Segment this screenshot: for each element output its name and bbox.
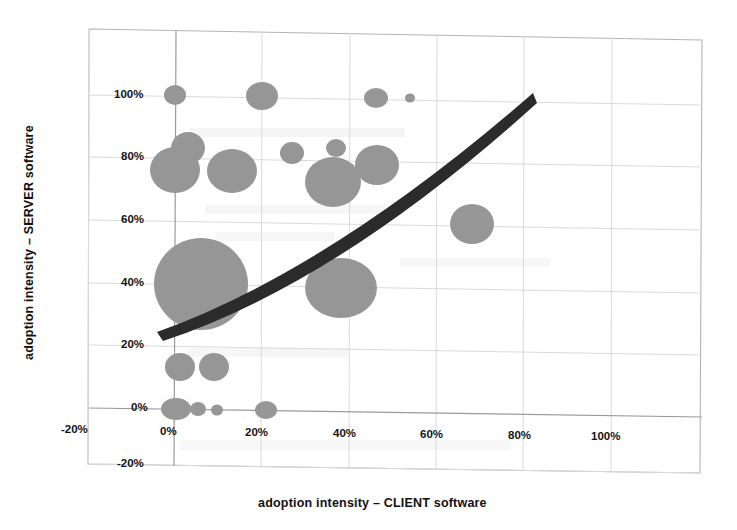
y-tick-40: 40%	[121, 276, 144, 288]
bubble	[165, 353, 195, 381]
x-axis-title: adoption intensity – CLIENT software	[258, 496, 487, 510]
y-tick-80: 80%	[121, 150, 144, 162]
bubble	[164, 85, 186, 105]
bubble	[305, 157, 361, 207]
y-tick-0: 0%	[131, 401, 148, 413]
bubble	[355, 145, 399, 185]
chart-canvas	[0, 0, 737, 530]
bubble	[450, 204, 494, 244]
x-tick-60: 60%	[420, 428, 443, 440]
x-tick-40: 40%	[333, 427, 356, 439]
y-axis-title: adoption intensity – SERVER software	[22, 130, 36, 360]
x-tick-20: 20%	[245, 426, 268, 438]
x-tick-80: 80%	[508, 429, 531, 441]
bubble	[207, 149, 257, 193]
x-tick-neg20: -20%	[61, 423, 88, 435]
bubble	[405, 94, 415, 103]
bubble	[211, 405, 223, 416]
bubble	[326, 139, 346, 157]
bubble	[150, 147, 200, 193]
y-tick-60: 60%	[121, 213, 144, 225]
y-tick-20: 20%	[121, 338, 144, 350]
x-tick-100: 100%	[591, 430, 620, 442]
y-tick-100: 100%	[114, 88, 143, 100]
bubble	[246, 82, 278, 110]
bubble	[199, 353, 229, 381]
bubble	[161, 398, 191, 420]
bubble	[190, 402, 206, 416]
bubble	[255, 401, 277, 419]
y-tick-neg20: -20%	[117, 457, 144, 469]
bubble-chart: 100% 80% 60% 40% 20% 0% -20% -20% 0% 20%…	[0, 0, 737, 530]
bubble	[280, 142, 304, 164]
x-tick-0: 0%	[160, 425, 177, 437]
bubble	[364, 88, 388, 108]
